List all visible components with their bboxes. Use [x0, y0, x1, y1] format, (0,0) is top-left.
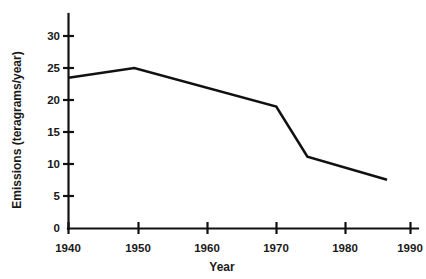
y-tick-labels: 30 25 20 15 10 5 0 — [47, 30, 60, 234]
y-tick-label: 10 — [47, 158, 60, 170]
x-tick-label: 1980 — [332, 242, 358, 254]
chart-canvas: Emissions (teragrams/year) 30 25 20 15 1… — [0, 0, 426, 279]
x-tick-label: 1960 — [194, 242, 220, 254]
y-tick-label: 5 — [54, 190, 61, 202]
x-tick-label: 1970 — [263, 242, 289, 254]
y-axis-title: Emissions (teragrams/year) — [10, 51, 24, 208]
x-tick-label: 1940 — [55, 242, 81, 254]
y-tick-label: 20 — [47, 94, 60, 106]
x-tick-label: 1950 — [125, 242, 151, 254]
y-tick-label: 30 — [47, 30, 60, 42]
line-chart: Emissions (teragrams/year) 30 25 20 15 1… — [0, 0, 426, 279]
y-tick-label: 15 — [47, 126, 60, 138]
x-axis-title: Year — [209, 260, 235, 274]
emissions-series-line — [69, 68, 388, 180]
x-tick-label: 1990 — [397, 242, 423, 254]
y-tick-label: 25 — [47, 62, 60, 74]
y-tick-label: 0 — [54, 222, 60, 234]
x-tick-labels: 1940 1950 1960 1970 1980 1990 — [55, 242, 423, 254]
